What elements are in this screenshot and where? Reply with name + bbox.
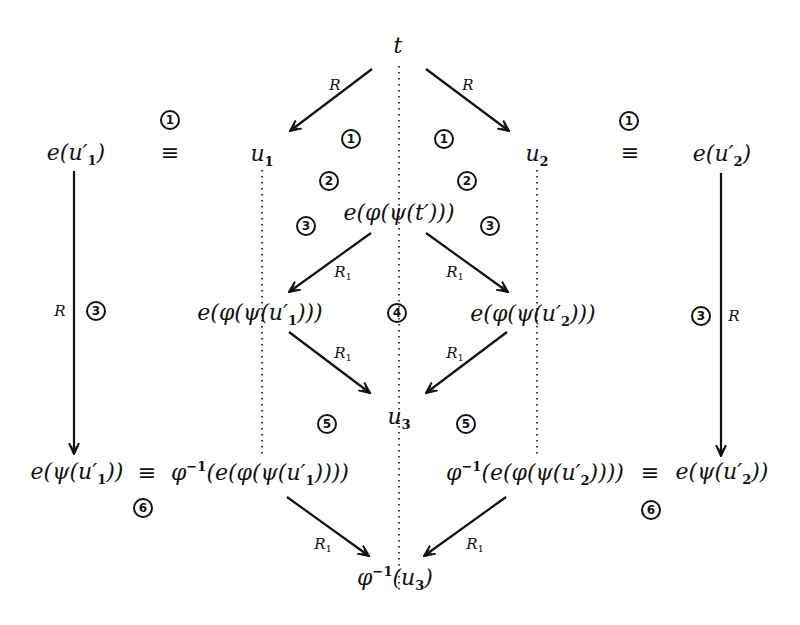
node-u2: u2 — [525, 143, 548, 168]
edge-label-t-u2: R — [462, 78, 473, 93]
phiinv-u3-sup: −1 — [373, 564, 393, 579]
node-e-psi-u2-prime-pre: e(ψ(u′ — [676, 459, 743, 484]
phiinv-u3-phi: φ — [357, 565, 372, 590]
node-phiinv-u3: φ−1(u3) — [357, 565, 433, 592]
step-marker-1-right-equiv: 1 — [619, 111, 639, 131]
diagram-canvas: t u1 u2 e(u′1) e(u′2) ≡ ≡ e(φ(ψ(t′))) e(… — [0, 0, 800, 625]
node-u1: u1 — [250, 143, 273, 168]
node-u2-sub: 2 — [540, 154, 549, 169]
step-marker-3-left-inner: 3 — [296, 216, 316, 236]
phiinv-right-body: (e(φ(ψ(u′ — [481, 460, 580, 485]
node-e-psi-u2-prime: e(ψ(u′2)) — [676, 461, 769, 486]
edge-label-sub: 1 — [345, 271, 351, 282]
node-e-phi-psi-u2-prime-sub: 2 — [561, 314, 570, 329]
node-e-psi-u1-prime-sub: 1 — [97, 472, 106, 487]
edge-label-sub: 1 — [477, 543, 483, 554]
node-u1-sub: 1 — [265, 154, 274, 169]
node-e-u1-prime-post: ) — [97, 140, 106, 165]
node-u3-sub: 3 — [402, 417, 411, 432]
node-e-psi-u1-prime-pre: e(ψ(u′ — [31, 459, 98, 484]
node-u2-base: u — [525, 141, 539, 166]
phiinv-u3-post: ) — [424, 565, 433, 590]
phiinv-u3-sub: 3 — [415, 578, 424, 593]
edge-label-base: R — [334, 263, 345, 281]
node-e-phi-psi-u2-prime: e(φ(ψ(u′2))) — [470, 303, 595, 328]
edge-label-sub: 1 — [345, 352, 351, 363]
arrow-br-to-phiinvu3 — [424, 497, 506, 556]
node-e-phi-psi-u1-prime-sub: 1 — [288, 313, 297, 328]
phiinv-right-post: )))) — [590, 460, 624, 485]
step-marker-2-left: 2 — [319, 171, 339, 191]
node-e-u2-prime-post: ) — [743, 141, 752, 166]
step-marker-5-right: 5 — [456, 414, 476, 434]
phiinv-u3-body: (u — [392, 565, 415, 590]
node-t: t — [394, 35, 403, 57]
step-marker-2-right: 2 — [457, 171, 477, 191]
node-e-u1-prime: e(u′1) — [47, 142, 105, 167]
edge-label-sub: 1 — [325, 543, 331, 554]
equiv-right-bottom: ≡ — [641, 462, 659, 484]
edge-label-left-vertical: R — [54, 304, 65, 319]
step-marker-6-right: 6 — [641, 500, 661, 520]
phiinv-left-post: )))) — [315, 460, 349, 485]
node-u3: u3 — [387, 406, 410, 431]
node-e-phi-psi-u1-prime-post: ))) — [297, 300, 323, 325]
edge-label-bl-phiinvu3: R1 — [314, 537, 332, 554]
phiinv-right-sup: −1 — [461, 459, 481, 474]
equiv-left-bottom: ≡ — [138, 462, 156, 484]
phiinv-left-sub: 1 — [306, 473, 315, 488]
arrow-etp-to-eu2 — [426, 233, 508, 292]
node-u1-base: u — [250, 141, 264, 166]
phiinv-left-sup: −1 — [186, 459, 206, 474]
step-marker-5-left: 5 — [317, 414, 337, 434]
node-phiinv-e-phi-psi-u2-prime: φ−1(e(φ(ψ(u′2)))) — [446, 460, 624, 487]
phiinv-right-phi: φ — [446, 460, 461, 485]
edge-label-base: R — [446, 344, 457, 362]
node-e-phi-psi-t-prime-text: e(φ(ψ(t′))) — [343, 200, 454, 225]
edge-label-base: R — [314, 535, 325, 553]
node-e-psi-u2-prime-sub: 2 — [742, 472, 751, 487]
node-e-phi-psi-u2-prime-post: ))) — [570, 301, 596, 326]
arrow-eu2-to-u3 — [426, 332, 507, 393]
edge-label-br-phiinvu3: R1 — [466, 537, 484, 554]
phiinv-left-phi: φ — [171, 460, 186, 485]
edge-label-sub: 1 — [457, 271, 463, 282]
node-e-phi-psi-u2-prime-pre: e(φ(ψ(u′ — [470, 301, 561, 326]
node-e-u1-prime-sub: 1 — [88, 153, 97, 168]
node-phiinv-e-phi-psi-u1-prime: φ−1(e(φ(ψ(u′1)))) — [171, 460, 349, 487]
node-e-u1-prime-pre: e(u′ — [47, 140, 88, 165]
edge-label-t-u1: R — [329, 78, 340, 93]
node-e-psi-u1-prime: e(ψ(u′1)) — [31, 461, 124, 486]
edge-label-etp-eu2: R1 — [446, 265, 464, 282]
edge-label-base: R — [466, 535, 477, 553]
phiinv-right-sub: 2 — [581, 473, 590, 488]
node-e-psi-u1-prime-post: )) — [106, 459, 123, 484]
edge-label-eu1-u3: R1 — [334, 346, 352, 363]
edge-label-right-vertical: R — [728, 309, 739, 324]
node-e-phi-psi-u1-prime-pre: e(φ(ψ(u′ — [197, 300, 288, 325]
node-e-u2-prime-sub: 2 — [734, 154, 743, 169]
step-marker-1-right-inner: 1 — [434, 129, 454, 149]
edge-label-sub: 1 — [457, 352, 463, 363]
step-marker-6-left: 6 — [133, 498, 153, 518]
node-t-text: t — [394, 33, 403, 58]
edge-label-base: R — [446, 263, 457, 281]
node-e-psi-u2-prime-post: )) — [751, 459, 768, 484]
node-e-phi-psi-u1-prime: e(φ(ψ(u′1))) — [197, 302, 322, 327]
arrow-etp-to-eu1 — [289, 233, 371, 292]
node-e-phi-psi-t-prime: e(φ(ψ(t′))) — [343, 202, 454, 224]
step-marker-1-left-inner: 1 — [341, 129, 361, 149]
edge-label-base: R — [334, 344, 345, 362]
step-marker-3-right-outer: 3 — [691, 306, 711, 326]
equiv-right-top: ≡ — [621, 142, 639, 164]
step-marker-4-center: 4 — [387, 303, 407, 323]
edge-label-etp-eu1: R1 — [334, 265, 352, 282]
arrow-eu1-to-u3 — [289, 332, 370, 393]
node-e-u2-prime-pre: e(u′ — [693, 141, 734, 166]
equiv-left-top: ≡ — [161, 142, 179, 164]
step-marker-1-left-equiv: 1 — [160, 110, 180, 130]
node-u3-base: u — [387, 404, 401, 429]
step-marker-3-left-outer: 3 — [86, 301, 106, 321]
phiinv-left-body: (e(φ(ψ(u′ — [206, 460, 305, 485]
edge-label-eu2-u3: R1 — [446, 346, 464, 363]
